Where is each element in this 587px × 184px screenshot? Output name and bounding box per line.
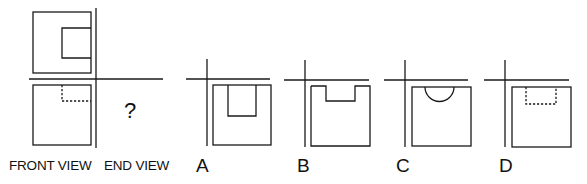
option-c-label[interactable]: C xyxy=(396,155,410,177)
option-d-figure[interactable] xyxy=(484,60,571,147)
end-view-label: END VIEW xyxy=(104,158,169,173)
option-c-figure[interactable] xyxy=(384,60,471,147)
top-view xyxy=(33,12,91,73)
option-a-figure[interactable] xyxy=(186,59,271,146)
option-b-label[interactable]: B xyxy=(297,155,310,177)
front-view-hidden-slot xyxy=(62,85,91,101)
front-view xyxy=(33,85,91,145)
end-view-question-mark: ? xyxy=(124,98,136,124)
front-view-label: FRONT VIEW xyxy=(9,158,92,173)
option-b-figure[interactable] xyxy=(284,60,370,147)
option-a-label[interactable]: A xyxy=(196,155,209,177)
top-view-slot xyxy=(62,28,91,58)
option-d-label[interactable]: D xyxy=(499,155,513,177)
